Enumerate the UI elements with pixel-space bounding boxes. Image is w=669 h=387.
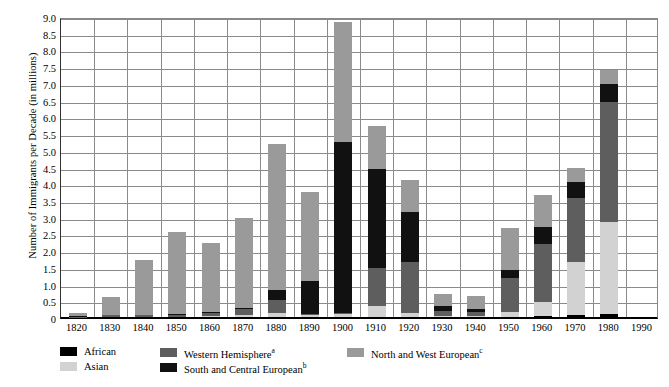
bar-segment	[301, 315, 319, 317]
x-tick-label: 1910	[365, 322, 386, 333]
gridline-vertical	[127, 19, 128, 317]
bar-1890	[301, 192, 319, 317]
bar-segment	[268, 313, 286, 317]
bar-segment	[534, 302, 552, 316]
bar-1820	[69, 313, 87, 317]
bar-segment	[135, 260, 153, 315]
bar-segment	[467, 316, 485, 317]
bar-segment	[534, 244, 552, 302]
bar-segment	[401, 212, 419, 262]
y-tick-label: 8.5	[12, 29, 56, 40]
x-tick-label: 1980	[598, 322, 619, 333]
y-tick-label: 3.0	[12, 213, 56, 224]
bar-segment	[600, 70, 618, 84]
bar-segment	[401, 180, 419, 212]
bar-segment	[235, 315, 253, 317]
legend-swatch-icon	[160, 348, 177, 357]
bar-segment	[467, 296, 485, 310]
legend-asian[interactable]: Asian	[60, 361, 109, 372]
legend-footnote-marker: b	[303, 361, 307, 370]
legend-swatch-icon	[60, 347, 77, 356]
bar-segment	[301, 192, 319, 281]
bar-segment	[168, 232, 186, 314]
x-tick-label: 1850	[166, 322, 187, 333]
bar-1980	[600, 70, 618, 317]
legend-label: South and Central Europeanb	[184, 361, 306, 375]
x-tick-label: 1880	[265, 322, 286, 333]
gridline-vertical	[360, 19, 361, 317]
bar-segment	[501, 278, 519, 311]
bar-segment	[501, 228, 519, 270]
bar-segment	[368, 306, 386, 317]
bar-segment	[135, 315, 153, 317]
legend-north-west-european[interactable]: North and West Europeanc	[347, 346, 483, 360]
y-tick-label: 9.0	[12, 13, 56, 24]
bar-segment	[334, 142, 352, 313]
bar-segment	[501, 270, 519, 278]
x-tick-label: 1960	[531, 322, 552, 333]
gridline-vertical	[593, 19, 594, 317]
bar-segment	[202, 316, 220, 317]
chart-legend: AfricanAsianWestern HemisphereaSouth and…	[60, 346, 660, 380]
bar-segment	[567, 198, 585, 262]
y-tick-label: 2.0	[12, 247, 56, 258]
gridline-vertical	[194, 19, 195, 317]
bar-segment	[434, 316, 452, 317]
bar-segment	[534, 227, 552, 244]
bar-1880	[268, 144, 286, 317]
legend-label: Asian	[84, 361, 109, 372]
x-tick-label: 1840	[133, 322, 154, 333]
gridline-vertical	[94, 19, 95, 317]
legend-swatch-icon	[60, 362, 77, 371]
bar-1940	[467, 296, 485, 317]
bar-segment	[600, 102, 618, 222]
bar-1830	[102, 297, 120, 317]
y-tick-label: 6.5	[12, 96, 56, 107]
gridline-vertical	[526, 19, 527, 317]
bar-segment	[534, 195, 552, 228]
bar-segment	[202, 243, 220, 312]
legend-south-central-european[interactable]: South and Central Europeanb	[160, 361, 306, 375]
y-tick-label: 2.5	[12, 230, 56, 241]
x-tick-label: 1870	[232, 322, 253, 333]
y-tick-label: 5.5	[12, 130, 56, 141]
legend-footnote-marker: c	[479, 346, 482, 355]
gridline-horizontal	[61, 86, 657, 87]
legend-african[interactable]: African	[60, 346, 116, 357]
bar-segment	[600, 222, 618, 314]
gridline-horizontal	[61, 119, 657, 120]
bar-segment	[235, 218, 253, 308]
x-tick-label: 1930	[432, 322, 453, 333]
bar-1900	[334, 22, 352, 317]
x-tick-label: 1990	[631, 322, 652, 333]
bar-segment	[567, 315, 585, 317]
bar-1860	[202, 243, 220, 317]
y-tick-label: 0	[12, 314, 56, 325]
bar-segment	[301, 281, 319, 314]
gridline-vertical	[460, 19, 461, 317]
bar-segment	[600, 84, 618, 102]
legend-label: Western Hemispherea	[184, 346, 275, 360]
x-tick-label: 1920	[398, 322, 419, 333]
gridline-horizontal	[61, 69, 657, 70]
gridline-horizontal	[61, 153, 657, 154]
bar-segment	[368, 169, 386, 268]
bar-1870	[235, 218, 253, 317]
bar-segment	[401, 262, 419, 313]
y-tick-label: 7.5	[12, 63, 56, 74]
x-tick-label: 1830	[99, 322, 120, 333]
gridline-vertical	[294, 19, 295, 317]
bar-1960	[534, 195, 552, 317]
gridline-vertical	[626, 19, 627, 317]
gridline-horizontal	[61, 103, 657, 104]
bar-segment	[567, 168, 585, 182]
gridline-horizontal	[61, 136, 657, 137]
plot-frame	[60, 18, 658, 319]
gridline-horizontal	[61, 36, 657, 37]
y-tick-label: 1.5	[12, 263, 56, 274]
bar-1850	[168, 232, 186, 317]
legend-western-hemisphere[interactable]: Western Hemispherea	[160, 346, 275, 360]
x-tick-label: 1860	[199, 322, 220, 333]
bar-segment	[600, 314, 618, 317]
bar-segment	[534, 316, 552, 317]
